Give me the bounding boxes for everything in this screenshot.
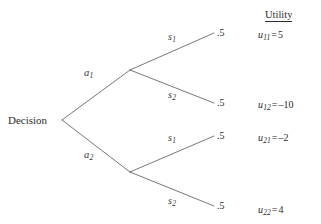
utility-u12-sub: 12 bbox=[263, 103, 271, 112]
action-a2-sub: 2 bbox=[90, 153, 94, 162]
utility-u11-eq: = bbox=[271, 29, 277, 40]
probability-label-p22: .5 bbox=[217, 201, 225, 211]
decision-node-label: Decision bbox=[8, 115, 47, 126]
utility-u22-sub: 22 bbox=[263, 208, 271, 217]
utility-u21-value: –2 bbox=[278, 132, 288, 143]
state-label-s12: s2 bbox=[168, 90, 176, 102]
action-label-a1: a1 bbox=[84, 68, 93, 80]
utility-value-u12: u12=–10 bbox=[258, 100, 293, 112]
probability-label-p12: .5 bbox=[217, 98, 225, 108]
utility-value-u22: u22=4 bbox=[258, 205, 283, 217]
utility-u11-sub: 11 bbox=[263, 33, 270, 42]
action-a1-var: a bbox=[84, 67, 89, 78]
utility-value-u11: u11=5 bbox=[258, 30, 283, 42]
state-s22-sub: 2 bbox=[172, 199, 176, 208]
utility-u21-eq: = bbox=[272, 132, 278, 143]
edge-root-to-chance2 bbox=[62, 120, 130, 172]
edge-root-to-chance1 bbox=[62, 70, 130, 120]
action-a1-sub: 1 bbox=[90, 71, 94, 80]
state-s12-sub: 2 bbox=[172, 93, 176, 102]
probability-label-p21: .5 bbox=[217, 131, 225, 141]
probability-label-p11: .5 bbox=[217, 28, 225, 38]
state-label-s22: s2 bbox=[168, 196, 176, 208]
utility-u12-value: –10 bbox=[278, 99, 293, 110]
utility-u22-eq: = bbox=[272, 204, 278, 215]
utility-u11-value: 5 bbox=[278, 29, 283, 40]
state-s21-sub: 1 bbox=[172, 136, 176, 145]
action-a2-var: a bbox=[84, 149, 89, 160]
utility-u21-sub: 21 bbox=[263, 136, 271, 145]
utility-value-u21: u21=–2 bbox=[258, 133, 288, 145]
action-label-a2: a2 bbox=[84, 150, 93, 162]
state-s11-sub: 1 bbox=[172, 35, 176, 44]
utility-u22-value: 4 bbox=[278, 204, 283, 215]
state-label-s21: s1 bbox=[168, 133, 176, 145]
decision-tree-figure: Decision a1 a2 s1 s2 s1 s2 .5 .5 .5 .5 U… bbox=[0, 0, 321, 224]
utility-u12-eq: = bbox=[272, 99, 278, 110]
utility-column-header: Utility bbox=[265, 10, 292, 22]
state-label-s11: s1 bbox=[168, 32, 176, 44]
